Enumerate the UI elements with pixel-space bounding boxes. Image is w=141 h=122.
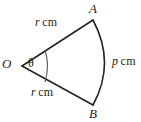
angle-marker-arc (45, 50, 48, 82)
point-label-o: O (2, 57, 11, 70)
radius-label-top: r cm (35, 16, 57, 28)
radius-unit-bottom: cm (36, 85, 54, 99)
radius-label-bottom: r cm (31, 86, 53, 98)
point-label-a: A (89, 2, 97, 15)
arc-length-unit: cm (118, 54, 136, 68)
sector-figure: O A B θ r cm r cm p cm (0, 0, 141, 122)
point-label-b: B (89, 107, 97, 120)
arc-ab (93, 20, 105, 105)
arc-length-label: p cm (112, 55, 136, 67)
radius-unit-top: cm (40, 15, 58, 29)
angle-label-theta: θ (28, 57, 34, 69)
